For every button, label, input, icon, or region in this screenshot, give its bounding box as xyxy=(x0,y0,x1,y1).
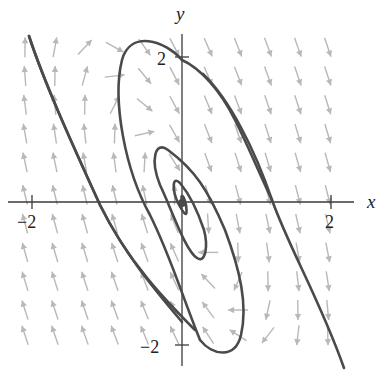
trajectory-outer xyxy=(29,36,195,330)
field-arrowhead xyxy=(51,243,57,250)
field-arrowhead xyxy=(81,185,87,192)
field-arrowhead xyxy=(141,185,147,192)
direction-field xyxy=(21,37,332,345)
field-arrowhead xyxy=(325,285,331,291)
field-arrowhead xyxy=(21,153,27,160)
field-arrowhead xyxy=(82,95,88,101)
field-arrowhead xyxy=(296,165,302,172)
field-arrowhead xyxy=(326,165,332,172)
field-arrowhead xyxy=(52,37,58,43)
field-arrowhead xyxy=(21,124,27,130)
y-axis-label: y xyxy=(174,3,185,24)
field-arrowhead xyxy=(296,198,302,205)
field-arrowhead xyxy=(81,124,87,130)
field-arrowhead xyxy=(22,66,28,72)
field-arrowhead xyxy=(51,214,57,221)
field-arrowhead xyxy=(264,313,270,320)
field-arrowhead xyxy=(111,185,117,192)
field-arrowhead xyxy=(228,307,234,313)
field-arrowhead xyxy=(325,256,331,263)
equilibrium-point xyxy=(178,199,186,207)
field-arrowhead xyxy=(51,153,57,160)
trajectory-outer-right xyxy=(203,74,344,368)
field-arrowhead xyxy=(21,185,27,192)
field-arrowhead xyxy=(81,153,87,159)
field-arrowhead xyxy=(266,227,272,234)
y-tick-label-pos2: 2 xyxy=(157,49,166,69)
field-arrowhead xyxy=(236,198,242,205)
field-arrowhead xyxy=(148,130,155,136)
field-arrowhead xyxy=(51,185,57,192)
field-arrowhead xyxy=(81,214,87,221)
field-arrowhead xyxy=(144,49,150,56)
field-arrowhead xyxy=(295,314,301,320)
field-arrowhead xyxy=(112,124,118,130)
field-arrowhead xyxy=(111,214,117,221)
x-tick-label-neg2: −2 xyxy=(17,212,36,232)
x-axis-label: x xyxy=(366,191,376,212)
field-arrowhead xyxy=(51,124,57,130)
y-tick-label-neg2: −2 xyxy=(140,337,159,357)
field-arrowhead xyxy=(296,227,302,234)
field-arrowhead xyxy=(198,249,204,255)
field-arrowhead xyxy=(236,227,242,233)
trajectory-spiral-large-top xyxy=(182,60,272,200)
field-arrowhead xyxy=(142,152,148,158)
phase-portrait: x y −2 2 2 −2 xyxy=(0,0,384,384)
field-arrowhead xyxy=(265,285,271,291)
field-arrowhead xyxy=(21,243,27,250)
field-arrowhead xyxy=(83,66,89,73)
trajectory-spiral-large xyxy=(119,41,244,352)
field-arrowhead xyxy=(202,302,208,309)
x-tick-label-pos2: 2 xyxy=(325,212,334,232)
field-arrowhead xyxy=(22,37,28,43)
field-arrowhead xyxy=(325,339,331,345)
field-arrowhead xyxy=(205,227,211,233)
field-arrowhead xyxy=(52,66,58,72)
